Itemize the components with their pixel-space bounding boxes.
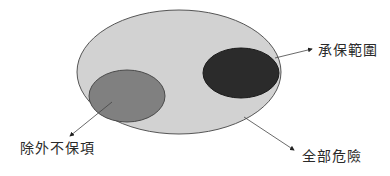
all-risks-label: 全部危險 [302, 148, 362, 164]
coverage-scope-ellipse [203, 48, 279, 98]
coverage-label: 承保範圍 [318, 42, 378, 58]
coverage-arrow [275, 49, 312, 58]
all-risks-arrow [244, 117, 294, 150]
exclusions-ellipse [89, 70, 165, 122]
exclusions-label: 除外不保項 [20, 140, 95, 156]
exclusions-arrow [70, 102, 112, 136]
